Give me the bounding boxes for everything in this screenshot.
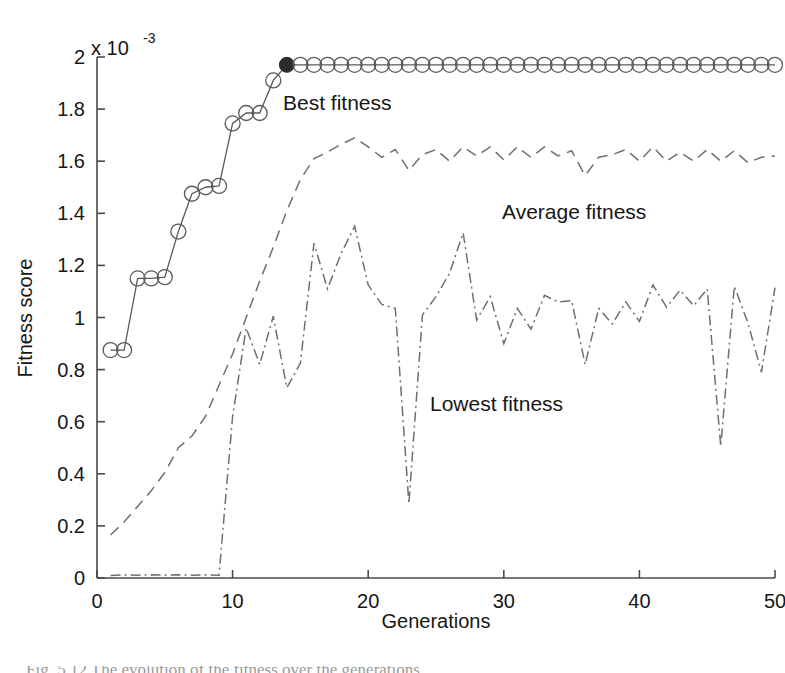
y-tick-label: 1.4	[57, 202, 85, 224]
x-tick-label: 30	[493, 590, 515, 612]
x-tick-label: 0	[91, 590, 102, 612]
x-axis-title: Generations	[382, 610, 491, 632]
y-axis-exponent-base: x 10	[91, 37, 129, 59]
x-tick-label: 10	[221, 590, 243, 612]
y-tick-label: 0.6	[57, 411, 85, 433]
y-tick-label: 0	[74, 567, 85, 589]
fitness-chart-svg: 00.20.40.60.811.21.41.61.82 01020304050 …	[0, 0, 785, 673]
y-tick-label: 1.6	[57, 150, 85, 172]
x-tick-label: 40	[628, 590, 650, 612]
best-fitness-line	[111, 65, 775, 350]
y-tick-label: 0.4	[57, 463, 85, 485]
y-tick-label: 1.8	[57, 98, 85, 120]
fitness-evolution-figure: 00.20.40.60.811.21.41.61.82 01020304050 …	[0, 0, 785, 673]
y-tick-label: 1	[74, 307, 85, 329]
x-axis-ticks	[97, 570, 775, 578]
axis-lines	[97, 57, 775, 578]
best-fitness-marker-highlighted	[279, 57, 294, 72]
average-fitness-annotation: Average fitness	[502, 200, 646, 223]
lowest-fitness-annotation: Lowest fitness	[430, 392, 563, 415]
caption-fragment: Fig. 5.12 The evolution of the fitness o…	[26, 666, 446, 673]
y-axis-title: Fitness score	[14, 259, 36, 378]
best-fitness-annotation: Best fitness	[283, 91, 392, 114]
y-tick-label: 1.2	[57, 254, 85, 276]
y-tick-label: 2	[74, 46, 85, 68]
series-group	[103, 57, 782, 575]
best-fitness-markers	[103, 57, 782, 357]
y-tick-label: 0.2	[57, 515, 85, 537]
x-axis-tick-labels: 01020304050	[91, 590, 785, 612]
y-tick-label: 0.8	[57, 359, 85, 381]
x-tick-label: 50	[764, 590, 785, 612]
y-axis-tick-labels: 00.20.40.60.811.21.41.61.82	[57, 46, 85, 589]
y-axis-exponent-power: -3	[143, 30, 156, 46]
y-axis-ticks	[97, 57, 105, 578]
x-tick-label: 20	[357, 590, 379, 612]
average-fitness-line	[111, 138, 775, 535]
